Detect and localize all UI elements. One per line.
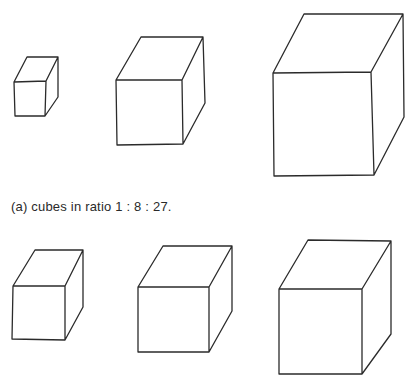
cube-small [14,57,58,116]
caption-a: (a) cubes in ratio 1 : 8 : 27. [11,199,172,214]
cube-b2 [138,246,232,352]
cube-medium [116,37,205,145]
cube-b1 [12,250,83,340]
cube-large [273,14,404,176]
cube-b3 [279,240,391,374]
cube-drawings [12,14,404,374]
cube-figure [0,0,410,384]
